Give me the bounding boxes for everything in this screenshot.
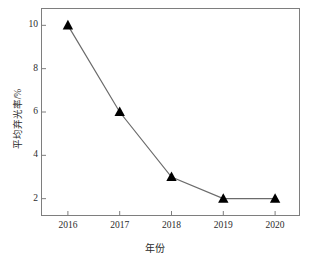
chart-screenshot: 10 8 6 4 2 2016 2017 2018 2019 2020 平均弃光…: [0, 0, 309, 263]
x-tick-label-2020: 2020: [266, 221, 285, 231]
x-tick-label-2018: 2018: [162, 221, 181, 231]
x-axis-title: 年份: [0, 240, 309, 255]
x-tick-label-2017: 2017: [110, 221, 129, 231]
x-tick-label-2019: 2019: [214, 221, 233, 231]
y-tick-label-2: 2: [16, 194, 38, 204]
y-axis-title: 平均弃光率/%: [10, 63, 24, 175]
plot-frame: [41, 8, 300, 216]
x-tick-label-2016: 2016: [58, 221, 77, 231]
y-tick-label-10: 10: [16, 21, 38, 31]
